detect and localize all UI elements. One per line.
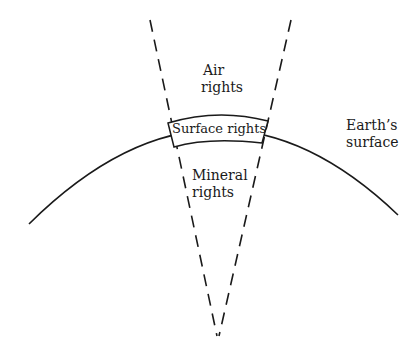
air-rights-label-line1: Air (202, 62, 225, 78)
mineral-rights-label-line2: rights (192, 184, 234, 200)
property-rights-diagram: Air rights Surface rights Mineral rights… (0, 0, 419, 358)
surface-rights-label: Surface rights (172, 121, 266, 136)
mineral-rights-label-line1: Mineral (192, 167, 248, 183)
earth-surface-label-line2: surface (346, 134, 399, 150)
earth-surface-label-line1: Earth’s (346, 117, 398, 133)
air-rights-label-line2: rights (201, 79, 243, 95)
